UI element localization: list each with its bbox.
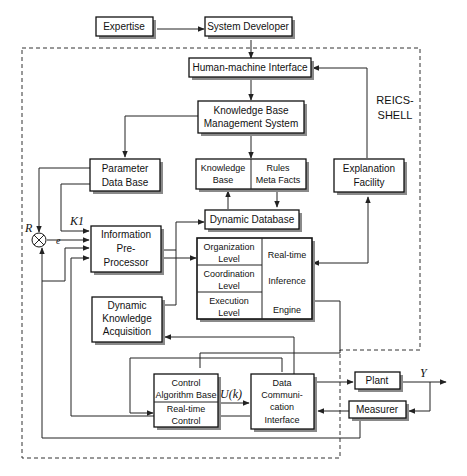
svg-text:Facility: Facility bbox=[353, 177, 384, 188]
svg-text:Level: Level bbox=[218, 254, 240, 264]
svg-text:Engine: Engine bbox=[273, 305, 301, 315]
svg-text:Algorithm Base: Algorithm Base bbox=[155, 390, 216, 400]
svg-text:cation: cation bbox=[270, 402, 294, 412]
svg-text:Knowledge Base: Knowledge Base bbox=[213, 105, 288, 116]
svg-text:Expertise: Expertise bbox=[103, 21, 145, 32]
link-inference-explanation bbox=[313, 197, 368, 263]
link-explanation-hmi bbox=[313, 68, 367, 158]
svg-text:Inference: Inference bbox=[268, 276, 306, 286]
link-output-measurer bbox=[409, 382, 430, 411]
block-dynamic-knowledge-acquisition: Dynamic Knowledge Acquisition bbox=[92, 297, 165, 345]
svg-text:Knowledge: Knowledge bbox=[102, 313, 152, 324]
svg-text:Human-machine Interface: Human-machine Interface bbox=[192, 62, 307, 73]
block-knowledge-base-rules: Knowledge Base Rules Meta Facts bbox=[196, 159, 309, 192]
signal-r-label: R bbox=[24, 221, 33, 235]
svg-text:Communi-: Communi- bbox=[261, 390, 303, 400]
svg-text:Information: Information bbox=[101, 229, 151, 240]
block-human-machine-interface: Human-machine Interface bbox=[189, 58, 314, 80]
svg-text:Management System: Management System bbox=[204, 118, 299, 129]
summing-junction bbox=[32, 233, 46, 247]
block-parameter-database: Parameter Data Base bbox=[90, 159, 163, 194]
svg-text:Pre-: Pre- bbox=[117, 243, 136, 254]
svg-text:Organization: Organization bbox=[203, 242, 254, 252]
signal-uk-label: U(k) bbox=[220, 387, 242, 401]
svg-text:Meta Facts: Meta Facts bbox=[256, 175, 301, 185]
svg-text:Dynamic: Dynamic bbox=[108, 300, 147, 311]
svg-text:Knowledge: Knowledge bbox=[201, 163, 246, 173]
svg-text:Acquisition: Acquisition bbox=[103, 326, 151, 337]
svg-text:Execution: Execution bbox=[209, 296, 249, 306]
block-explanation-facility: Explanation Facility bbox=[334, 159, 407, 195]
block-expertise: Expertise bbox=[96, 17, 156, 39]
svg-text:Interface: Interface bbox=[264, 415, 299, 425]
architecture-diagram: REICS- SHELL bbox=[0, 0, 467, 476]
svg-text:Control: Control bbox=[171, 416, 200, 426]
shell-label-1: REICS- bbox=[376, 94, 414, 106]
signal-e-label: e bbox=[56, 235, 61, 246]
svg-text:Processor: Processor bbox=[103, 257, 149, 268]
block-system-developer: System Developer bbox=[205, 17, 295, 39]
svg-text:Real-time: Real-time bbox=[167, 404, 206, 414]
link-dci-dka bbox=[165, 337, 294, 376]
link-loop-rtcontrol bbox=[130, 358, 153, 413]
svg-text:Rules: Rules bbox=[266, 163, 290, 173]
block-information-preprocessor: Information Pre- Processor bbox=[91, 226, 164, 275]
block-measurer: Measurer bbox=[349, 401, 409, 421]
link-feedback-infopre bbox=[42, 248, 89, 281]
block-control: Control Algorithm Base Real-time Control bbox=[154, 374, 221, 430]
svg-text:Measurer: Measurer bbox=[356, 404, 399, 415]
block-kb-management-system: Knowledge Base Management System bbox=[198, 101, 307, 136]
svg-text:Explanation: Explanation bbox=[343, 163, 395, 174]
link-loop-top bbox=[130, 358, 282, 372]
svg-text:System Developer: System Developer bbox=[207, 21, 289, 32]
block-dynamic-database: Dynamic Database bbox=[205, 210, 302, 232]
svg-text:Base: Base bbox=[213, 175, 234, 185]
svg-text:Coordination: Coordination bbox=[203, 269, 254, 279]
block-realtime-inference-engine: Real-time Inference Engine bbox=[268, 250, 307, 315]
svg-text:Control: Control bbox=[171, 378, 200, 388]
svg-text:Plant: Plant bbox=[366, 375, 389, 386]
svg-text:Level: Level bbox=[218, 281, 240, 291]
link-kbms-paramdb bbox=[125, 116, 198, 157]
svg-text:Dynamic Database: Dynamic Database bbox=[210, 214, 295, 225]
svg-text:Level: Level bbox=[218, 308, 240, 318]
svg-text:Data: Data bbox=[272, 378, 291, 388]
signal-y-label: Y bbox=[420, 366, 428, 380]
block-data-communication-interface: Data Communi- cation Interface bbox=[251, 374, 317, 432]
svg-text:Parameter: Parameter bbox=[102, 163, 149, 174]
shell-label-2: SHELL bbox=[378, 109, 413, 121]
block-inference-engine-group: Organization Level Coordination Level Ex… bbox=[197, 238, 315, 322]
svg-text:Real-time: Real-time bbox=[268, 250, 307, 260]
signal-k1-label: K1 bbox=[69, 214, 84, 228]
block-plant: Plant bbox=[355, 372, 403, 392]
svg-text:Data Base: Data Base bbox=[102, 177, 149, 188]
